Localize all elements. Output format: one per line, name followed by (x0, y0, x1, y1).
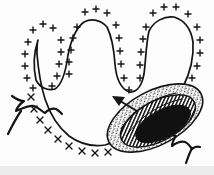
figure-canvas (0, 0, 214, 175)
footer-band (0, 166, 214, 175)
lightning-right-tail-icon (186, 148, 192, 163)
lightning-left-tail-icon (8, 111, 21, 134)
shaded-core (96, 70, 213, 167)
hachure-ticks-cross (28, 94, 111, 156)
figure-root (0, 0, 214, 175)
